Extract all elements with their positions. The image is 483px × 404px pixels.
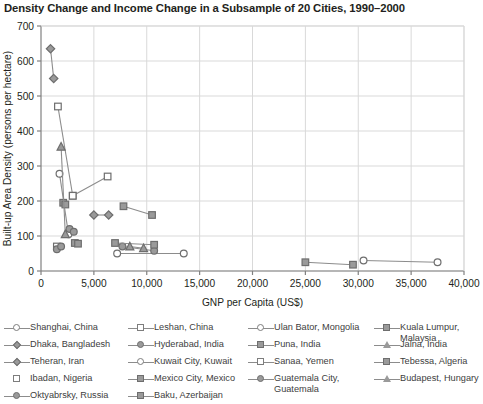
legend-item[interactable]: Hyderabad, India [128,339,252,356]
data-point-diamond-filled[interactable] [46,45,54,53]
legend-marker-circle-open-icon [128,357,154,368]
chart-title: Density Change and Income Change in a Su… [4,2,405,14]
legend-marker-glyph [257,375,264,382]
data-point-square-open[interactable] [69,192,76,199]
series-line [364,261,438,263]
data-point-square-filled[interactable] [120,203,127,210]
data-point-square-filled[interactable] [112,240,119,247]
legend-marker-circle-open-icon [4,323,30,334]
legend-item[interactable]: Ulan Bator, Mongolia [248,322,374,339]
x-axis-tick-label: 35,000 [396,278,427,289]
legend-marker-glyph [383,358,390,365]
legend-marker-triangle-icon [374,340,400,351]
legend-marker-glyph [257,324,264,331]
x-axis-tick-label: 10,000 [131,278,162,289]
data-point-circle-filled[interactable] [58,243,65,250]
data-point-circle-open[interactable] [114,250,121,257]
legend-item-label: Guatemala City, Guatemala [274,373,339,394]
legend-item-label: Budapest, Hungary [400,373,479,384]
y-axis-tick-label: 500 [17,91,34,102]
legend-item[interactable]: Shanghai, China [4,322,128,339]
y-axis-tick-label: 100 [17,231,34,242]
legend-item-label: Mexico City, Mexico [154,373,235,384]
legend-marker-circle-open-icon [248,323,274,334]
legend-item[interactable]: Dhaka, Bangladesh [4,339,128,356]
data-point-diamond-filled[interactable] [104,211,112,219]
legend-item[interactable]: Baku, Azerbaijan [128,390,252,404]
legend-marker-square-open-icon [248,357,274,368]
data-point-diamond-filled[interactable] [90,211,98,219]
legend-marker-square-fill-icon [248,340,274,351]
x-axis-tick-label: 25,000 [290,278,321,289]
legend-marker-square-open-icon [4,374,30,385]
legend-item-label: Leshan, China [154,322,213,333]
legend-item[interactable]: Leshan, China [128,322,252,339]
y-axis-tick-label: 700 [17,21,34,32]
legend-marker-glyph [12,357,20,365]
data-point-circle-filled[interactable] [119,243,126,250]
legend-item[interactable]: Guatemala City, Guatemala [248,373,374,390]
data-point-diamond-filled[interactable] [49,74,57,82]
legend-marker-square-fill-icon [128,374,154,385]
legend-item-label: Kuwait City, Kuwait [154,356,232,367]
data-point-square-open[interactable] [104,173,111,180]
legend-item[interactable]: Kuwait City, Kuwait [128,356,252,373]
legend-item-label: Oktyabrsky, Russia [30,390,108,401]
legend-item[interactable]: Tebessa, Algeria [374,356,482,373]
legend-item-label: Ulan Bator, Mongolia [274,322,359,333]
data-point-square-filled[interactable] [302,259,309,266]
legend-item-label: Jalna, India [400,339,447,350]
legend-column: Kuala Lumpur, MalaysiaJalna, IndiaTebess… [374,322,482,390]
x-axis-tick-label: 15,000 [184,278,215,289]
legend-marker-glyph [12,340,20,348]
legend-marker-square-open-icon [128,323,154,334]
data-point-square-filled[interactable] [149,212,156,219]
legend-marker-circle-fill-icon [248,374,274,385]
legend-item[interactable]: Mexico City, Mexico [128,373,252,390]
x-axis-tick-label: 30,000 [343,278,374,289]
x-axis-tick-label: 40,000 [448,278,479,289]
chart-legend: Shanghai, ChinaDhaka, BangladeshTeheran,… [0,322,483,394]
legend-marker-glyph [137,341,144,348]
data-point-square-filled[interactable] [151,241,158,248]
legend-marker-glyph [137,375,144,382]
legend-item[interactable]: Kuala Lumpur, Malaysia [374,322,482,339]
legend-marker-triangle-icon [374,374,400,385]
legend-item[interactable]: Puna, India [248,339,374,356]
series-line [58,107,73,196]
data-point-square-filled[interactable] [350,261,357,268]
legend-item-label: Baku, Azerbaijan [154,390,223,401]
data-point-circle-open[interactable] [360,257,367,264]
data-point-square-filled[interactable] [62,201,69,208]
legend-item-label: Dhaka, Bangladesh [30,339,110,350]
legend-marker-diamond-fill-icon [4,340,30,351]
legend-marker-glyph [137,358,144,365]
legend-marker-square-fill-icon [128,391,154,402]
legend-column: Shanghai, ChinaDhaka, BangladeshTeheran,… [4,322,128,404]
legend-item[interactable]: Ibadan, Nigeria [4,373,128,390]
x-axis-title: GNP per Capita (US$) [202,297,303,308]
y-axis-tick-label: 300 [17,161,34,172]
legend-marker-circle-fill-icon [4,391,30,402]
legend-column: Leshan, ChinaHyderabad, IndiaKuwait City… [128,322,252,404]
legend-item[interactable]: Sanaa, Yemen [248,356,374,373]
legend-marker-glyph [257,358,264,365]
legend-marker-diamond-fill-icon [4,357,30,368]
plot-svg: 010020030040050060070005,00010,00015,000… [0,18,483,308]
y-axis-tick-label: 200 [17,196,34,207]
legend-marker-glyph [383,375,391,382]
data-point-square-filled[interactable] [75,240,82,247]
legend-item[interactable]: Oktyabrsky, Russia [4,390,128,404]
y-axis-tick-label: 0 [28,266,34,277]
legend-item[interactable]: Teheran, Iran [4,356,128,373]
series-line [305,262,353,264]
data-point-circle-filled[interactable] [70,228,77,235]
legend-item[interactable]: Jalna, India [374,339,482,356]
data-point-square-open[interactable] [55,103,62,110]
data-point-circle-open[interactable] [180,250,187,257]
series-line [123,206,152,215]
data-point-circle-open[interactable] [434,259,441,266]
legend-item[interactable]: Budapest, Hungary [374,373,482,390]
legend-marker-circle-fill-icon [128,340,154,351]
x-axis-tick-label: 5,000 [81,278,107,289]
